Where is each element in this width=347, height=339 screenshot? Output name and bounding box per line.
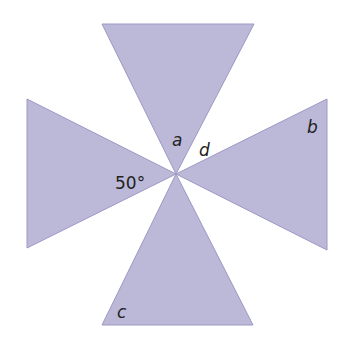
label-b: b [307,117,318,137]
label-angle-50: 50° [115,173,145,193]
triangles-figure: a d b c 50° [0,0,347,339]
label-d: d [199,140,210,160]
label-c: c [117,302,127,322]
label-a: a [172,130,182,150]
